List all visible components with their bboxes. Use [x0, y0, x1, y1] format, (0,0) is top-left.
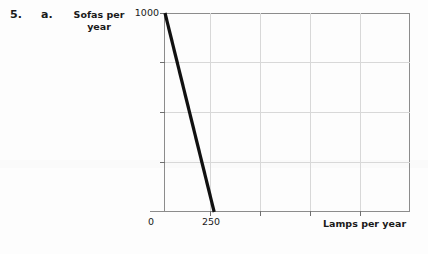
y-axis-title: Sofas per year: [70, 9, 128, 32]
x-axis-baseline-extension: [150, 211, 165, 212]
y-axis-tick-label-1000: 1000: [133, 7, 159, 18]
x-axis-tick-label-250: 250: [196, 216, 226, 227]
x-axis-tick-label-0: 0: [141, 216, 161, 227]
ppf-line-series: [164, 13, 410, 212]
problem-part-label: a.: [41, 8, 53, 21]
problem-number: 5.: [10, 8, 22, 21]
x-axis-title: Lamps per year: [323, 218, 406, 229]
